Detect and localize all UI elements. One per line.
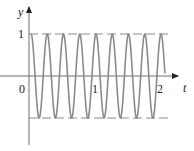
x-axis-label: t — [183, 81, 187, 95]
y-tick-label-1: 1 — [18, 27, 24, 41]
cosine-chart: y t 0 1 2 1 — [0, 0, 194, 151]
x-tick-label-1: 1 — [92, 82, 98, 96]
origin-label: 0 — [19, 82, 25, 96]
y-axis-label: y — [17, 5, 24, 19]
x-tick-label-2: 2 — [157, 82, 163, 96]
